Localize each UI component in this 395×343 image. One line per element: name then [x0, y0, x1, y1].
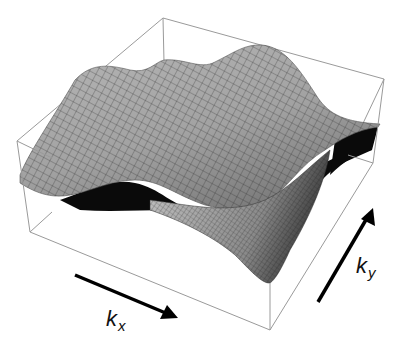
- ky-label-subscript: y: [368, 264, 376, 281]
- kx-axis-label: kx: [106, 308, 126, 330]
- ky-axis-label: ky: [356, 255, 376, 277]
- surface-plot-canvas: [0, 0, 395, 343]
- kx-label-main: k: [106, 306, 117, 331]
- surface-mesh: [20, 45, 380, 283]
- kx-axis-arrow: [75, 275, 178, 319]
- surface-plot-figure: kx ky: [0, 0, 395, 343]
- ky-label-main: k: [356, 253, 367, 278]
- kx-label-subscript: x: [118, 317, 126, 334]
